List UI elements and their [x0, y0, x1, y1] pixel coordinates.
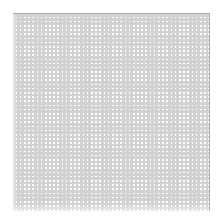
grid-top-border-rule: [13, 13, 210, 14]
figure-alt-text: Dense uniform light-gray grid pattern: [0, 0, 1, 1]
grid-plot-area: [13, 14, 210, 211]
figure-canvas: Dense uniform light-gray grid pattern: [0, 0, 222, 224]
grid-right-border-rule: [209, 14, 210, 211]
